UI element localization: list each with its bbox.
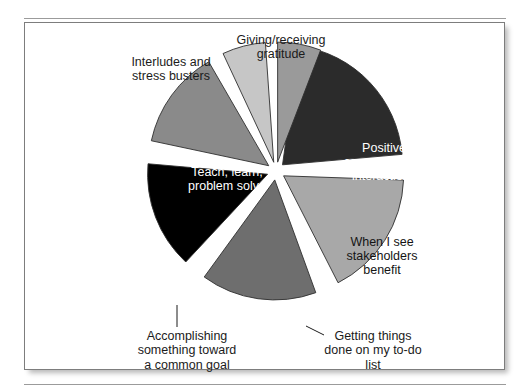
slice-label-positive-conversations: Positive conversations/ interactions xyxy=(325,141,443,183)
top-horizontal-rule xyxy=(24,18,506,19)
slice-label-interludes-stress-busters: Interludes and stress busters xyxy=(113,55,229,84)
figure-box: Positive conversations/ interactions Whe… xyxy=(24,22,505,370)
slice-label-getting-things-done: Getting things done on my to-do list xyxy=(309,329,437,372)
pie-chart: Positive conversations/ interactions Whe… xyxy=(25,23,504,369)
page-canvas: Positive conversations/ interactions Whe… xyxy=(0,0,530,392)
pie-chart-svg xyxy=(25,23,504,369)
slice-label-giving-receiving-gratitude: Giving/receiving gratitude xyxy=(217,33,345,62)
slice-label-teach-learn-problem-solve: Teach, learn, problem solve xyxy=(165,165,289,193)
bottom-horizontal-rule xyxy=(24,384,506,385)
slice-label-stakeholders-benefit: When I see stakeholders benefit xyxy=(323,235,441,277)
slice-label-accomplishing-common-goal: Accomplishing something toward a common … xyxy=(111,329,263,372)
